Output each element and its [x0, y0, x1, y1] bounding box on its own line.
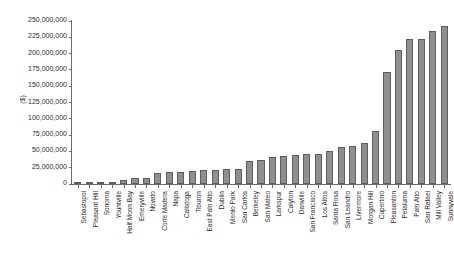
bar [303, 21, 310, 184]
y-tick-label: 250,000,000 [28, 16, 67, 23]
x-tick-mark [192, 184, 193, 188]
x-tick-label: Pleasanton [390, 191, 397, 224]
bar [246, 21, 253, 184]
x-tick-label: Emeryville [138, 191, 145, 221]
bar [361, 21, 368, 184]
x-tick-mark [238, 184, 239, 188]
x-tick-label: Los Altos [321, 191, 328, 217]
x-tick-mark [318, 184, 319, 188]
bar [120, 21, 127, 184]
x-tick-label: Santa Rosa [332, 191, 339, 225]
x-tick-mark [444, 184, 445, 188]
x-tick-mark [433, 184, 434, 188]
x-tick-mark [204, 184, 205, 188]
bar-rect [257, 160, 264, 184]
x-tick-mark [261, 184, 262, 188]
bar [372, 21, 379, 184]
x-tick-label: San Rafael [424, 191, 431, 223]
x-tick-mark [341, 184, 342, 188]
x-tick-label: East Palo Alto [206, 191, 213, 231]
x-tick-mark [158, 184, 159, 188]
bar [280, 21, 287, 184]
bar [292, 21, 299, 184]
bar [349, 21, 356, 184]
x-tick-mark [398, 184, 399, 188]
y-tick-label: 150,000,000 [28, 81, 67, 88]
y-tick-label: 100,000,000 [28, 114, 67, 121]
bar [131, 21, 138, 184]
x-tick-label: Sebastopol [80, 191, 87, 224]
bar-rect [154, 173, 161, 184]
bar [406, 21, 413, 184]
bar-rect [292, 155, 299, 184]
bar-rect [303, 154, 310, 184]
x-tick-mark [284, 184, 285, 188]
x-tick-mark [215, 184, 216, 188]
bar [235, 21, 242, 184]
x-tick-mark [295, 184, 296, 188]
bar [109, 21, 116, 184]
bar-rect [212, 170, 219, 184]
x-tick-mark [112, 184, 113, 188]
bar [189, 21, 196, 184]
x-tick-label: Calyton [287, 191, 294, 213]
x-tick-label: Palo Alto [413, 191, 420, 217]
x-tick-label: Corte Madera [161, 191, 168, 231]
x-tick-mark [181, 184, 182, 188]
bar [326, 21, 333, 184]
bar-rect [269, 157, 276, 184]
bar-rect [280, 156, 287, 184]
bar-rect [223, 169, 230, 184]
x-tick-label: Danville [298, 191, 305, 214]
bar-rect [429, 31, 436, 184]
bar [383, 21, 390, 184]
bar-rect [189, 171, 196, 184]
y-tick-label: 175,000,000 [28, 65, 67, 72]
bar [257, 21, 264, 184]
x-tick-mark [78, 184, 79, 188]
y-axis-label: ($) [19, 90, 26, 110]
x-tick-mark [272, 184, 273, 188]
x-tick-label: Livermore [355, 191, 362, 220]
x-tick-mark [227, 184, 228, 188]
x-tick-label: Sunnyvale [447, 191, 454, 221]
x-tick-label: Sonoma [103, 191, 110, 215]
bar-rect [200, 170, 207, 184]
x-tick-label: Tiburon [195, 191, 202, 213]
bar-rect [177, 172, 184, 184]
x-tick-mark [89, 184, 90, 188]
x-tick-mark [135, 184, 136, 188]
x-tick-label: Half Moon Bay [126, 191, 133, 234]
bar-rect [315, 154, 322, 184]
bar-rect [338, 147, 345, 184]
x-tick-label: Pleasant Hill [92, 191, 99, 227]
bar-rect [395, 50, 402, 184]
bar [223, 21, 230, 184]
x-tick-label: San Mateo [264, 191, 271, 222]
bar-rect [349, 146, 356, 184]
y-tick-label: 200,000,000 [28, 49, 67, 56]
bar [315, 21, 322, 184]
bar-rect [418, 39, 425, 184]
bar [200, 21, 207, 184]
x-tick-mark [410, 184, 411, 188]
bar [143, 21, 150, 184]
x-tick-mark [101, 184, 102, 188]
bar-series [72, 21, 450, 184]
y-tick-label: 0 [63, 179, 67, 186]
x-tick-label: Petaluma [401, 191, 408, 218]
bar [441, 21, 448, 184]
x-tick-label: Novato [149, 191, 156, 212]
bar [74, 21, 81, 184]
x-tick-label: San Francisco [309, 191, 316, 233]
x-tick-mark [387, 184, 388, 188]
x-tick-label: Calistoga [183, 191, 190, 218]
bar-rect [372, 131, 379, 184]
y-tick-label: 125,000,000 [28, 98, 67, 105]
y-tick-label: 225,000,000 [28, 32, 67, 39]
bar-rect [441, 26, 448, 184]
y-tick-label: 50,000,000 [32, 146, 67, 153]
bar [154, 21, 161, 184]
x-tick-mark [421, 184, 422, 188]
plot-area: 250,000,000225,000,000200,000,000175,000… [72, 21, 450, 184]
